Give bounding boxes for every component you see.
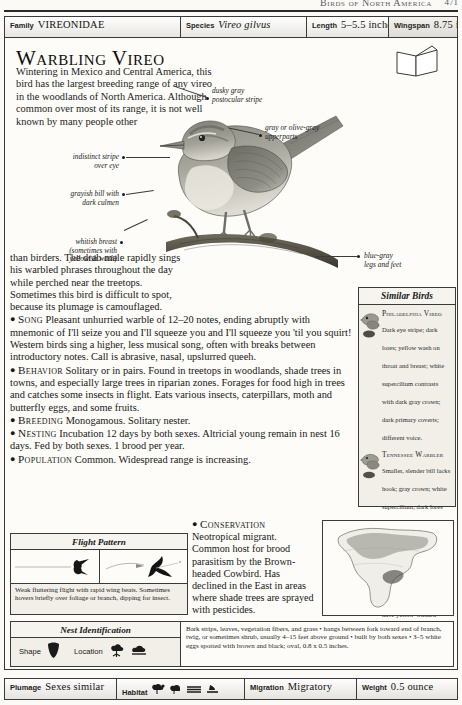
similar-birds-title: Similar Birds [359,288,455,305]
continuation-paragraph: than birders. The drab male rapidly sing… [10,252,186,313]
bullet-song: ● [10,314,15,324]
page-number: 471 [445,0,459,7]
section-song: ● Song Pleasant unhurried warble of 12–2… [10,313,355,363]
section-label-conservation: Conservation [200,518,265,530]
meta-cell-length: Length 5–5.5 inches [307,17,389,37]
range-map [322,520,454,616]
meta-value-length: 5–5.5 inches [341,19,389,30]
nest-location-tree-icon [109,643,125,660]
flight-pattern-caption: Weak fluttering flight with rapid wing b… [11,584,187,604]
callout-eye-stripe: indistinct stripeover eye [42,153,119,170]
bullet-behavior: ● [10,365,15,375]
section-label-breeding: Breeding [18,414,63,426]
meta-cell-plumage: Plumage Sexes similar [5,679,117,699]
nest-identification-left: Nest Identification Shape Location [11,622,181,666]
nest-identification-description: Bark strips, leaves, vegetation fibers, … [181,622,453,666]
tennessee-warbler-thumb-icon [360,450,381,484]
main-text-column: than birders. The drab male rapidly sing… [10,252,355,466]
habitat-shrub-icon [169,681,182,699]
section-text-song: Pleasant unhurried warble of 12–20 notes… [10,314,351,362]
bullet-conservation: ● [192,519,197,529]
section-nesting: ● Nesting Incubation 12 days by both sex… [10,427,355,453]
section-label-song: Song [18,313,43,325]
field-guide-page: Birds of North America 471 Family VIREON… [0,0,462,705]
habitat-marsh-icon [206,681,219,699]
bullet-population: ● [10,454,15,464]
meta-value-species: Vireo gilvus [218,19,270,30]
philadelphia-vireo-thumb-icon [360,309,381,343]
meta-value-plumage: Sexes similar [45,681,104,692]
callout-postocular-stripe: dusky graypostocular stripe [212,87,262,104]
bird-illustration [140,92,355,272]
meta-cell-wingspan: Wingspan 8.75 inches [389,17,457,37]
nest-location-label: Location [74,647,103,656]
callout-upperparts: gray or olive-grayupperparts [265,124,319,141]
section-label-nesting: Nesting [18,427,57,439]
nest-shape-icon [47,642,60,661]
flight-pattern-diagrams [11,550,187,584]
similar-birds-panel: Similar Birds Philadelphia Vireo Dark ey… [358,287,456,507]
similar-bird-name-1: Tennessee Warbler [382,450,451,459]
section-label-behavior: Behavior [18,364,63,376]
open-book-icon [394,44,440,82]
running-head-title: Birds of North America [320,0,432,8]
meta-cell-species: Species Vireo gilvus [181,17,307,37]
meta-key-family: Family [10,21,34,30]
nest-identification-icons: Shape Location [11,638,180,661]
meta-key-species: Species [186,21,214,30]
callout-dot-upperparts [259,134,262,137]
section-text-population: Common. Widespread range is increasing. [75,454,251,465]
nest-identification-panel: Nest Identification Shape Location [10,621,454,667]
header-meta-bar: Family VIREONIDAE Species Vireo gilvus L… [4,16,458,38]
top-rule [4,10,458,12]
section-conservation: ● Conservation Neotropical migrant. Comm… [192,518,314,617]
meta-value-weight: 0.5 ounce [391,681,434,692]
callout-legs: blue-graylegs and feet [364,252,401,269]
meta-key-plumage: Plumage [10,683,41,692]
section-population: ● Population Common. Widespread range is… [10,453,355,466]
meta-cell-habitat: Habitat [117,679,245,699]
section-breeding: ● Breeding Monogamous. Solitary nester. [10,414,355,427]
footer-meta-bar: Plumage Sexes similar Habitat [4,678,458,700]
nest-identification-title: Nest Identification [11,622,180,638]
meta-key-length: Length [312,21,337,30]
similar-bird-name-0: Philadelphia Vireo [382,309,451,318]
meta-cell-migration: Migration Migratory [245,679,357,699]
habitat-tree-icon [151,681,165,699]
meta-value-wingspan: 8.75 inches [434,19,457,30]
callout-dot-bill [122,193,125,196]
section-text-nesting: Incubation 12 days by both sexes. Altric… [10,428,340,451]
similar-bird-desc-0: Dark eye stripe; dark lores; yellow wash… [382,326,444,441]
bullet-nesting: ● [10,428,15,438]
flight-diagram-flight [100,550,188,583]
nest-shape-label: Shape [19,647,41,656]
meta-key-migration: Migration [250,683,284,692]
meta-value-family: VIREONIDAE [38,19,105,30]
section-label-population: Population [18,453,72,465]
callout-dot-breast [120,241,123,244]
section-text-breeding: Monogamous. Solitary nester. [66,415,191,426]
habitat-water-icon [186,681,202,699]
meta-cell-family: Family VIREONIDAE [5,17,181,37]
nest-location-shrub-icon [131,643,147,660]
section-text-conservation: Neotropical migrant. Common host for bro… [192,531,314,615]
flight-pattern-title: Flight Pattern [11,534,187,550]
flight-diagram-hover [11,550,100,583]
meta-key-weight: Weight [362,683,387,692]
callout-leader-eye-stripe [126,157,170,158]
bullet-breeding: ● [10,415,15,425]
callout-bill: grayish bill withdark culmen [20,190,119,207]
meta-key-habitat: Habitat [122,688,147,697]
meta-cell-weight: Weight 0.5 ounce [357,679,457,699]
meta-key-wingspan: Wingspan [394,21,430,30]
similar-bird-entry-philadelphia-vireo: Philadelphia Vireo Dark eye stripe; dark… [359,305,455,446]
section-behavior: ● Behavior Solitary or in pairs. Found i… [10,364,355,414]
callout-dot-eye-stripe [122,156,125,159]
flight-pattern-panel: Flight Pattern Weak flu [10,533,188,615]
meta-value-migration: Migratory [288,681,332,692]
